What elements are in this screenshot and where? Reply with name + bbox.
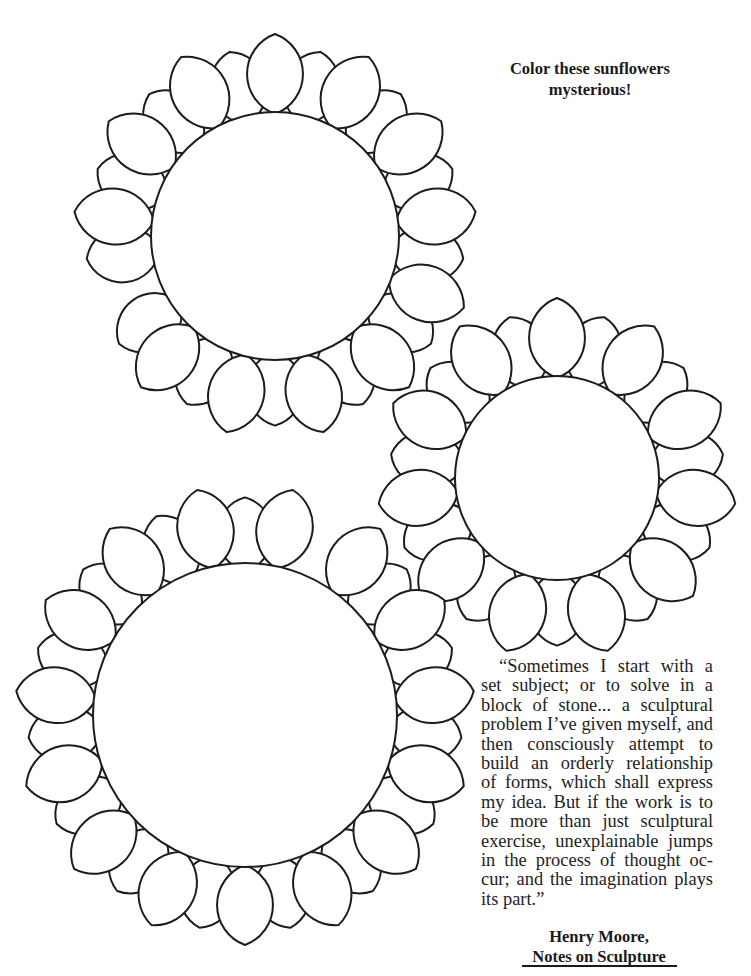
flower-center-disc[interactable] bbox=[151, 112, 399, 360]
attribution-source: Notes on Sculpture bbox=[500, 947, 698, 967]
page-heading: Color these sunflowers mysterious! bbox=[470, 58, 710, 100]
sunflower-top-left bbox=[75, 34, 476, 432]
quote-line: its part.” bbox=[481, 890, 713, 909]
sunflower-bottom-left bbox=[16, 490, 473, 945]
quote-line: of forms, which shall express bbox=[481, 773, 713, 792]
quote-line: build an orderly relationship bbox=[481, 754, 713, 773]
quote-block: “Sometimes I start with a set subject; o… bbox=[481, 657, 713, 909]
petal-front[interactable] bbox=[256, 490, 313, 568]
quote-line: problem I’ve given myself, and bbox=[481, 715, 713, 734]
attribution-underline bbox=[522, 965, 677, 967]
heading-line-2: mysterious! bbox=[470, 79, 710, 100]
heading-line-1: Color these sunflowers bbox=[470, 58, 710, 79]
quote-line: block of stone... a sculptural bbox=[481, 696, 713, 715]
quote-attribution: Henry Moore, Notes on Sculpture bbox=[500, 927, 698, 967]
quote-line: my idea. But if the work is to bbox=[481, 793, 713, 812]
attribution-author: Henry Moore, bbox=[500, 927, 698, 947]
quote-line: in the process of thought oc- bbox=[481, 851, 713, 870]
quote-line: cur; and the imagination plays bbox=[481, 870, 713, 889]
flower-center-disc[interactable] bbox=[455, 376, 659, 580]
flower-center-disc[interactable] bbox=[93, 563, 397, 867]
quote-line: then consciously attempt to bbox=[481, 735, 713, 754]
quote-line: exercise, unexplainable jumps bbox=[481, 832, 713, 851]
quote-line: “Sometimes I start with a bbox=[481, 657, 713, 676]
quote-line: set subject; or to solve in a bbox=[481, 676, 713, 695]
quote-line: be more than just sculptural bbox=[481, 812, 713, 831]
